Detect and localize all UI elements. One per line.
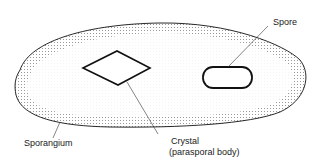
- sporangium-label: Sporangium: [24, 138, 73, 148]
- spore-label: Spore: [273, 17, 297, 27]
- crystal-label-line1: Crystal: [171, 136, 199, 146]
- spore-shape: [203, 67, 252, 88]
- sporangium-leader-line: [53, 122, 60, 138]
- crystal-label-line2: (parasporal body): [169, 147, 240, 157]
- sporangium-cell: [15, 23, 306, 127]
